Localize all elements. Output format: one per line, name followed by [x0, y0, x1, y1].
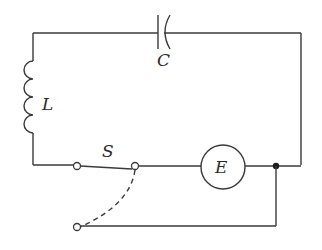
capacitor-symbol [158, 15, 170, 49]
switch-blade [80, 166, 132, 169]
inductor-label: L [41, 94, 53, 114]
switch-terminal-upper [132, 163, 139, 170]
switch-alternate-path [80, 170, 135, 227]
circuit-diagram: C L S E [0, 0, 322, 250]
switch-terminal-lower [74, 224, 81, 231]
capacitor-plate-curved [165, 15, 170, 49]
emf-label: E [214, 157, 228, 177]
inductor-coil [24, 61, 33, 133]
switch-terminal-pivot [74, 163, 81, 170]
capacitor-label: C [157, 50, 170, 70]
switch-label: S [102, 141, 114, 161]
switch-symbol [74, 163, 139, 231]
